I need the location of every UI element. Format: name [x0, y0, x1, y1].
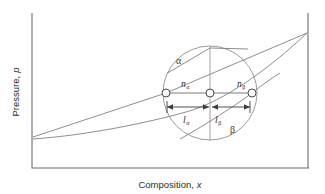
figure-container: α β nα nβ lα lβ Composition,x Pressure,p [0, 0, 325, 194]
alpha-composition-marker [162, 89, 170, 97]
axis-frame-left-bottom [32, 13, 309, 168]
upper-phase-boundary-curve [33, 33, 307, 137]
n-alpha-label: nα [181, 79, 190, 90]
l-alpha-left-arrowhead [167, 104, 173, 110]
n-alpha-subscript: α [186, 84, 190, 90]
y-axis-label-main: Pressure, [10, 76, 21, 117]
l-beta-left-arrowhead [212, 104, 218, 110]
x-axis-label-main: Composition, [138, 179, 193, 190]
n-beta-subscript: β [242, 84, 245, 90]
n-beta-label: nβ [237, 79, 245, 90]
n-alpha-variable: n [181, 79, 186, 89]
l-alpha-subscript: α [186, 120, 190, 126]
y-axis-label: Pressure,p [10, 68, 21, 117]
l-beta-subscript: β [218, 120, 221, 126]
axis-titles: Composition,x Pressure,p [10, 68, 203, 190]
lever-arm-dimensions [167, 101, 250, 113]
x-axis-label: Composition,x [138, 179, 202, 190]
beta-composition-marker [248, 89, 256, 97]
phase-diagram-figure: α β nα nβ lα lβ Composition,x Pressure,p [0, 0, 325, 194]
magnification-inset: α β nα nβ lα lβ [162, 46, 280, 140]
y-axis-label-variable: p [10, 68, 21, 74]
x-axis-label-variable: x [196, 179, 203, 190]
l-beta-right-arrowhead [244, 104, 250, 110]
phase-boundaries [33, 33, 307, 139]
plot-frame [32, 13, 309, 168]
overall-composition-marker [206, 89, 214, 97]
l-alpha-label: lα [183, 115, 190, 126]
beta-phase-label: β [230, 124, 235, 135]
n-beta-variable: n [237, 79, 242, 89]
alpha-phase-label: α [176, 55, 182, 66]
